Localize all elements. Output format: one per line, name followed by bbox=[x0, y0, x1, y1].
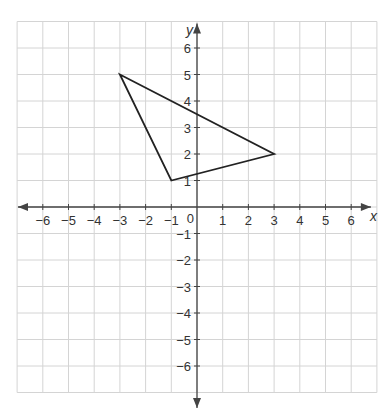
x-tick-label: 5 bbox=[322, 213, 329, 228]
x-tick-label: 2 bbox=[245, 213, 252, 228]
y-tick-label: −3 bbox=[176, 280, 191, 295]
x-tick-label: 1 bbox=[219, 213, 226, 228]
coordinate-grid: −6−5−4−3−2−1123456−6−5−4−3−2−11234560xy bbox=[0, 0, 388, 414]
y-axis-arrow-up-icon bbox=[193, 24, 201, 34]
x-axis-label: x bbox=[369, 208, 378, 224]
y-tick-label: 3 bbox=[184, 121, 191, 136]
y-tick-label: −2 bbox=[176, 253, 191, 268]
y-axis-label: y bbox=[185, 22, 194, 38]
x-tick-label: −6 bbox=[35, 213, 50, 228]
x-tick-label: −4 bbox=[87, 213, 102, 228]
x-tick-label: 6 bbox=[348, 213, 355, 228]
y-tick-label: −5 bbox=[176, 333, 191, 348]
origin-label: 0 bbox=[187, 211, 194, 226]
y-tick-label: −1 bbox=[176, 227, 191, 242]
y-axis-arrow-down-icon bbox=[193, 398, 201, 408]
y-tick-label: 4 bbox=[184, 94, 191, 109]
x-tick-label: −3 bbox=[112, 213, 127, 228]
y-tick-label: 2 bbox=[184, 147, 191, 162]
x-tick-label: 4 bbox=[296, 213, 303, 228]
y-tick-label: 5 bbox=[184, 68, 191, 83]
y-tick-label: −4 bbox=[176, 306, 191, 321]
x-tick-label: −2 bbox=[138, 213, 153, 228]
x-axis-arrow-left-icon bbox=[18, 203, 28, 211]
x-tick-label: 3 bbox=[270, 213, 277, 228]
y-tick-label: −6 bbox=[176, 359, 191, 374]
x-tick-label: −5 bbox=[61, 213, 76, 228]
y-tick-label: 6 bbox=[184, 41, 191, 56]
